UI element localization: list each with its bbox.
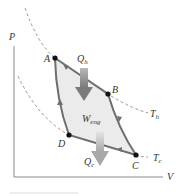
point-a [52,55,57,60]
label-b: B [112,84,118,95]
point-b [105,91,110,96]
label-c: C [132,160,139,171]
label-d: D [57,138,66,149]
carnot-pv-diagram: P V A B C D Qh Weng Qc Th Tc [0,0,178,194]
cycle [55,58,136,155]
point-c [133,152,138,157]
v-axis-label: V [167,171,175,182]
p-axis-label: P [8,31,15,42]
label-a: A [43,53,51,64]
heat-out-label: Qc [84,156,95,169]
hot-isotherm-label: Th [150,108,160,121]
heat-in-label: Qh [77,53,88,66]
point-d [66,132,71,137]
cold-isotherm-label: Tc [153,152,163,165]
